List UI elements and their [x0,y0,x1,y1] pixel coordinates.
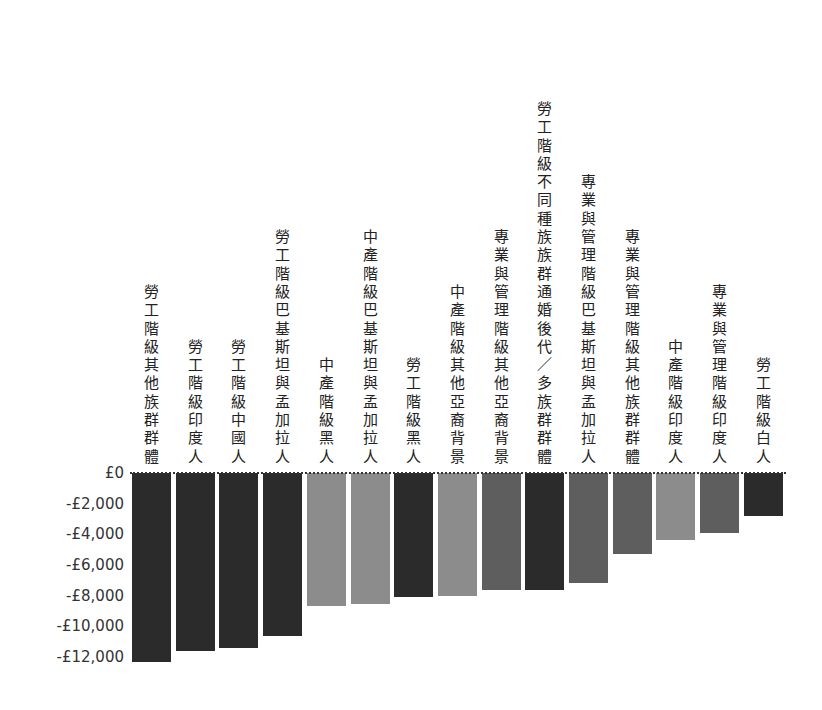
category-label: 勞工階級不同種族族群通婚後代／多族群群體 [534,100,556,466]
bar [525,473,564,590]
y-tick-label: -£12,000 [57,648,124,666]
y-tick-label: -£6,000 [66,556,124,574]
category-label: 勞工階級黑人 [403,356,425,466]
category-label: 勞工階級其他族群群體 [141,283,163,466]
category-label: 勞工階級白人 [752,356,774,466]
bar [219,473,258,648]
category-label: 中產階級巴基斯坦與孟加拉人 [359,228,381,466]
category-label: 勞工階級中國人 [228,338,250,466]
y-tick-label: -£8,000 [66,587,124,605]
bar [132,473,171,662]
bar [351,473,390,604]
bar [482,473,521,590]
y-tick-label: -£4,000 [66,525,124,543]
bar [700,473,739,533]
category-label: 中產階級黑人 [315,356,337,466]
bar [656,473,695,540]
bar [438,473,477,596]
category-label: 專業與管理階級其他族群群體 [621,228,643,466]
bar [263,473,302,636]
category-label: 中產階級印度人 [665,338,687,466]
bar-chart: £0-£2,000-£4,000-£6,000-£8,000-£10,000-£… [0,0,822,710]
category-label: 專業與管理階級巴基斯坦與孟加拉人 [578,173,600,466]
category-label: 勞工階級印度人 [184,338,206,466]
category-label: 專業與管理階級其他亞裔背景 [490,228,512,466]
bar [569,473,608,583]
y-tick-label: -£2,000 [66,495,124,513]
bar [176,473,215,651]
y-tick-label: -£10,000 [57,617,124,635]
bar [307,473,346,606]
category-label: 專業與管理階級印度人 [709,283,731,466]
bar [394,473,433,597]
bar [613,473,652,554]
category-label: 中產階級其他亞裔背景 [446,283,468,466]
zero-baseline [130,472,786,474]
bar [744,473,783,516]
y-tick-label: £0 [105,464,124,482]
category-label: 勞工階級巴基斯坦與孟加拉人 [272,228,294,466]
